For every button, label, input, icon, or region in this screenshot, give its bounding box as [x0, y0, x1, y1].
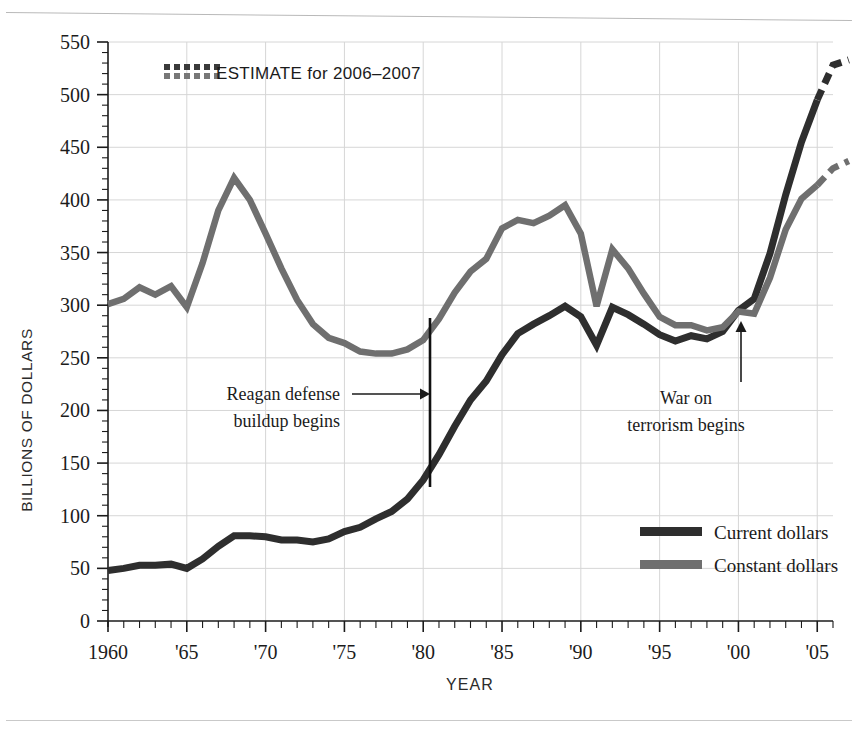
y-tick-label: 200 — [60, 399, 90, 421]
y-tick-label: 250 — [60, 347, 90, 369]
war-annotation-line2: terrorism begins — [627, 415, 744, 435]
x-tick-label: '00 — [727, 641, 751, 663]
reagan-annotation-line2: buildup begins — [234, 411, 341, 431]
y-tick-label: 350 — [60, 242, 90, 264]
defense-spending-chart: 050100150200250300350400450500550 1960'6… — [0, 0, 858, 731]
y-tick-label: 400 — [60, 189, 90, 211]
legend-swatch-constant — [640, 560, 702, 569]
x-tick-label: '95 — [648, 641, 672, 663]
estimate-dotted-swatch — [164, 64, 220, 79]
y-tick-labels: 050100150200250300350400450500550 — [60, 31, 90, 632]
x-tick-label: '85 — [490, 641, 514, 663]
y-tick-label: 50 — [70, 557, 90, 579]
y-tick-label: 0 — [80, 610, 90, 632]
war-annotation-arrowhead — [736, 321, 747, 332]
reagan-annotation-line1: Reagan defense — [227, 384, 340, 404]
x-tick-label: '65 — [175, 641, 199, 663]
estimate-key-label: ESTIMATE for 2006–2007 — [216, 64, 421, 83]
series-line-current-dollars — [108, 100, 817, 571]
x-tick-labels: 1960'65'70'75'80'85'90'95'00'05 — [88, 641, 829, 663]
x-tick-label: '70 — [254, 641, 278, 663]
series-line-constant-dollars — [108, 178, 817, 354]
y-tick-label: 300 — [60, 294, 90, 316]
series-lines — [108, 60, 849, 571]
legend-label-constant: Constant dollars — [714, 555, 838, 576]
y-tick-label: 450 — [60, 136, 90, 158]
war-annotation-line1: War on — [660, 388, 712, 408]
x-tick-label: '75 — [333, 641, 357, 663]
y-tick-label: 150 — [60, 452, 90, 474]
y-axis-title: BILLIONS OF DOLLARS — [18, 328, 35, 512]
axis-layer — [97, 42, 833, 632]
series-estimate-current-dollars — [817, 60, 849, 100]
y-tick-label: 550 — [60, 31, 90, 53]
y-tick-label: 500 — [60, 84, 90, 106]
estimate-key: ESTIMATE for 2006–2007 — [164, 64, 421, 83]
x-tick-label: '80 — [411, 641, 435, 663]
x-axis-title: YEAR — [446, 676, 494, 693]
series-estimate-constant-dollars — [817, 161, 849, 185]
reagan-annotation-arrowhead — [420, 389, 430, 400]
chart-legend: Current dollars Constant dollars — [640, 522, 838, 576]
x-tick-label: 1960 — [88, 641, 128, 663]
reagan-annotation: Reagan defense buildup begins — [227, 318, 430, 487]
x-tick-label: '90 — [569, 641, 593, 663]
x-tick-label: '05 — [805, 641, 829, 663]
y-tick-label: 100 — [60, 505, 90, 527]
legend-swatch-current — [640, 527, 702, 536]
legend-label-current: Current dollars — [714, 522, 829, 543]
